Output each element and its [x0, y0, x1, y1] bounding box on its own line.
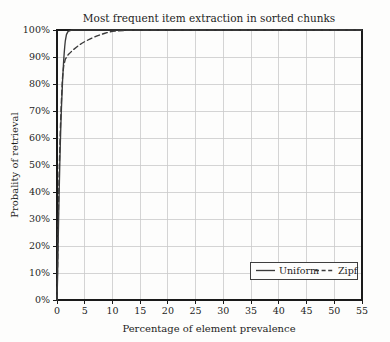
y-tick-label: 80% — [29, 78, 50, 89]
legend: Uniform Zipf — [250, 262, 359, 279]
y-tick-label: 70% — [29, 105, 50, 116]
y-tick-label: 60% — [29, 132, 50, 143]
legend-label-uniform: Uniform — [279, 265, 319, 276]
y-axis-ticks — [53, 30, 57, 300]
y-tick-label: 90% — [29, 51, 50, 62]
x-tick-label: 35 — [245, 305, 257, 316]
x-tick-label: 55 — [356, 305, 368, 316]
y-axis-title: Probality of retrieval — [9, 112, 20, 217]
line-chart: 0510152025303540455055 0%10%20%30%40%50%… — [0, 0, 390, 342]
chart-title: Most frequent item extraction in sorted … — [83, 12, 335, 24]
y-tick-label: 50% — [29, 159, 50, 170]
x-tick-label: 10 — [106, 305, 118, 316]
grid-lines — [57, 30, 362, 300]
x-tick-label: 50 — [328, 305, 340, 316]
legend-label-zipf: Zipf — [338, 265, 359, 276]
y-tick-label: 30% — [29, 213, 50, 224]
x-axis-tick-labels: 0510152025303540455055 — [54, 305, 368, 316]
y-tick-label: 10% — [29, 267, 50, 278]
x-tick-label: 0 — [54, 305, 60, 316]
y-tick-label: 20% — [29, 240, 50, 251]
x-tick-label: 30 — [217, 305, 229, 316]
x-axis-ticks — [57, 300, 362, 304]
chart-container: 0510152025303540455055 0%10%20%30%40%50%… — [0, 0, 390, 342]
y-tick-label: 0% — [35, 294, 50, 305]
x-tick-label: 45 — [300, 305, 312, 316]
y-tick-label: 40% — [29, 186, 50, 197]
x-axis-title: Percentage of element prevalence — [122, 323, 295, 334]
y-axis-tick-labels: 0%10%20%30%40%50%60%70%80%90%100% — [23, 24, 50, 305]
x-tick-label: 25 — [190, 305, 202, 316]
x-tick-label: 15 — [134, 305, 146, 316]
x-tick-label: 40 — [273, 305, 285, 316]
x-tick-label: 5 — [82, 305, 88, 316]
x-tick-label: 20 — [162, 305, 174, 316]
y-tick-label: 100% — [23, 24, 50, 35]
